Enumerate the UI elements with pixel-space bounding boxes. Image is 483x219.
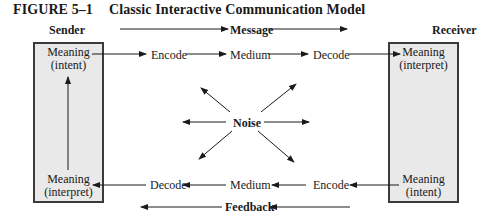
noise-arrow-upright: [261, 84, 296, 112]
diagram-arrows: [0, 0, 483, 219]
noise-arrow-upleft: [201, 88, 230, 112]
noise-arrow-downleft: [199, 131, 232, 159]
noise-arrow-downright: [258, 131, 294, 162]
